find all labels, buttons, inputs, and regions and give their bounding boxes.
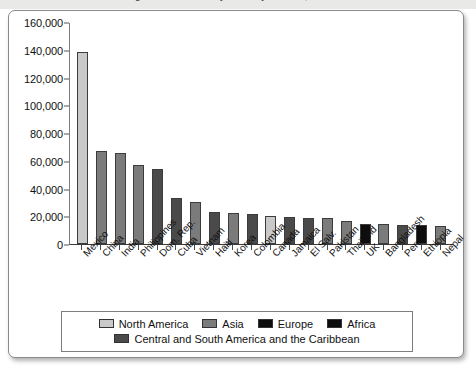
x-axis-label-slot: Philippines <box>133 250 144 312</box>
y-axis-tick-label: 60,000 <box>30 156 63 168</box>
legend-swatch <box>258 319 273 328</box>
y-axis-tick-label: 100,000 <box>24 100 63 112</box>
legend-row-secondary: Central and South America and the Caribb… <box>62 331 412 346</box>
legend-label: Asia <box>222 318 243 330</box>
legend-label: Central and South America and the Caribb… <box>134 333 359 345</box>
x-axis-label-slot: Dom. Rep. <box>152 250 163 312</box>
legend-item: Europe <box>258 318 313 330</box>
x-axis-label-slot: Vietnam <box>189 250 200 312</box>
x-axis-label-slot: India <box>114 250 125 312</box>
bar <box>115 153 126 244</box>
x-axis-label-slot: Pakistan <box>322 250 333 312</box>
y-axis-tick-label: 120,000 <box>24 73 63 85</box>
x-axis-label-slot: Bangladesh <box>378 250 389 312</box>
plot-wrapper: 020,00040,00060,00080,000100,000120,0001… <box>9 11 465 263</box>
bar <box>77 52 88 244</box>
x-axis-label-slot: Mexico <box>76 250 87 312</box>
bar <box>378 224 389 244</box>
legend-label: North America <box>119 318 189 330</box>
x-axis-label-slot: Haiti <box>208 250 219 312</box>
x-axis-label-slot: Thailand <box>340 250 351 312</box>
x-axis-label-slot: Ethiopia <box>416 250 427 312</box>
legend-item: Asia <box>202 318 243 330</box>
chart-card: 020,00040,00060,00080,000100,000120,0001… <box>8 10 464 358</box>
title-strip: Immigrants Admitted by Country of Birth,… <box>0 0 476 9</box>
chart-legend: North AmericaAsiaEuropeAfrica Central an… <box>61 311 413 352</box>
legend-label: Africa <box>347 318 375 330</box>
y-axis-tick-label: 80,000 <box>30 128 63 140</box>
bar-series <box>70 23 453 244</box>
chart-title-clipped: Immigrants Admitted by Country of Birth,… <box>111 0 364 1</box>
x-axis-label-slot: Peru <box>397 250 408 312</box>
legend-swatch <box>202 319 217 328</box>
legend-item: North America <box>99 318 189 330</box>
x-axis-label-slot: Nepal <box>435 250 446 312</box>
x-axis-label-slot: Jamaica <box>284 250 295 312</box>
y-axis-tick-label: 40,000 <box>30 184 63 196</box>
legend-row-primary: North AmericaAsiaEuropeAfrica <box>62 316 412 331</box>
x-axis-label-slot: UK <box>359 250 370 312</box>
x-axis-label-slot: Canada <box>265 250 276 312</box>
y-axis-tick-label: 20,000 <box>30 211 63 223</box>
plot-area <box>69 23 453 245</box>
x-axis-labels: MexicoChinaIndiaPhilippinesDom. Rep.Cuba… <box>69 250 453 312</box>
y-axis-tick-label: 140,000 <box>24 45 63 57</box>
y-axis-tick-label: 0 <box>57 239 63 251</box>
x-axis-label-slot: China <box>95 250 106 312</box>
legend-label: Europe <box>278 318 313 330</box>
x-axis-label-slot: El Salv. <box>303 250 314 312</box>
x-axis-label-slot: Colombia <box>246 250 257 312</box>
y-axis: 020,00040,00060,00080,000100,000120,0001… <box>13 23 69 245</box>
x-axis-label-slot: Cuba <box>170 250 181 312</box>
legend-swatch <box>114 334 129 343</box>
y-axis-tick-label: 160,000 <box>24 17 63 29</box>
legend-swatch <box>99 319 114 328</box>
legend-swatch <box>327 319 342 328</box>
x-axis-label-slot: Korea <box>227 250 238 312</box>
bar <box>133 165 144 244</box>
legend-item: Africa <box>327 318 375 330</box>
legend-item: Central and South America and the Caribb… <box>114 333 359 345</box>
